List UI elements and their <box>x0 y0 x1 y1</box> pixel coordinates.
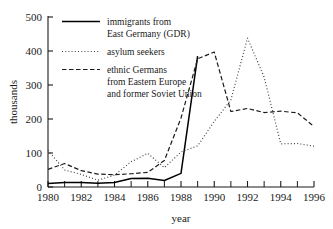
x-axis-title: year <box>172 212 191 224</box>
y-axis-tick-labels: 0100200300400500 <box>26 11 43 193</box>
legend-label-2: ethnic Germans <box>107 65 167 75</box>
x-tick-label: 1984 <box>104 191 127 203</box>
y-tick-label: 300 <box>26 79 43 91</box>
series-line-0 <box>48 56 198 184</box>
x-tick-label: 1988 <box>170 191 193 203</box>
x-tick-label: 1982 <box>70 191 92 203</box>
legend-label-0: East Germany (GDR) <box>107 29 190 40</box>
x-tick-label: 1990 <box>203 191 226 203</box>
series-line-2 <box>48 52 314 175</box>
series-line-1 <box>48 38 314 180</box>
immigration-line-chart: 0100200300400500 19801982198419861988199… <box>0 0 333 229</box>
x-axis-ticks <box>48 181 314 187</box>
data-series-group <box>48 38 314 184</box>
y-tick-label: 400 <box>26 45 43 57</box>
legend-label-0: immigrants from <box>107 17 172 27</box>
y-tick-label: 500 <box>26 11 43 23</box>
x-tick-label: 1986 <box>137 191 160 203</box>
x-tick-label: 1994 <box>270 191 293 203</box>
y-tick-label: 200 <box>26 113 43 125</box>
legend-label-2: from Eastern Europe <box>107 77 186 87</box>
x-axis-tick-labels: 198019821984198619881990199219941996 <box>37 191 326 203</box>
chart-legend: immigrants fromEast Germany (GDR)asylum … <box>62 17 202 99</box>
y-axis-ticks <box>48 17 53 187</box>
x-tick-label: 1992 <box>237 191 259 203</box>
legend-label-2: and former Soviet Union <box>107 89 202 99</box>
legend-label-1: asylum seekers <box>107 47 165 57</box>
y-axis-title: thousands <box>7 80 19 124</box>
y-tick-label: 100 <box>26 147 43 159</box>
chart-canvas: 0100200300400500 19801982198419861988199… <box>0 0 333 229</box>
x-tick-label: 1996 <box>303 191 326 203</box>
x-tick-label: 1980 <box>37 191 60 203</box>
